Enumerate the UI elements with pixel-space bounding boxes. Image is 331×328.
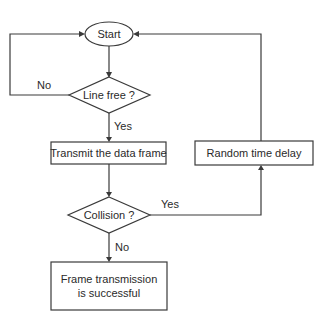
node-success-label-line1: Frame transmission	[61, 273, 158, 285]
node-random-delay: Random time delay	[195, 141, 313, 165]
node-start-label: Start	[97, 28, 120, 40]
node-transmit: Transmit the data frame	[50, 142, 166, 164]
node-collision: Collision ?	[68, 197, 150, 233]
edge-label-no-1: No	[37, 79, 51, 91]
node-line-free-label: Line free ?	[83, 89, 135, 101]
arrowhead-icon	[106, 257, 112, 262]
arrowhead-icon	[79, 31, 85, 37]
node-success-label-line2: is successful	[78, 287, 140, 299]
edge-transmit-to-collision	[106, 164, 112, 197]
edge-start-to-line-free	[106, 46, 112, 78]
node-success: Frame transmission is successful	[51, 262, 167, 310]
edge-line-free-yes: Yes	[106, 113, 132, 142]
node-line-free: Line free ?	[69, 77, 150, 113]
csma-flowchart: Start Line free ? No Yes Transmit the da…	[0, 0, 331, 328]
edge-label-yes-1: Yes	[114, 120, 132, 132]
node-collision-label: Collision ?	[84, 209, 135, 221]
edge-delay-to-start	[133, 31, 261, 141]
node-transmit-label: Transmit the data frame	[50, 147, 166, 159]
node-random-delay-label: Random time delay	[207, 147, 302, 159]
edge-label-no-2: No	[115, 241, 129, 253]
arrowhead-icon	[258, 165, 264, 170]
arrowhead-icon	[106, 137, 112, 142]
edge-collision-yes: Yes	[150, 165, 264, 215]
arrowhead-icon	[106, 192, 112, 197]
arrowhead-icon	[133, 31, 139, 37]
edge-collision-no: No	[106, 233, 129, 262]
node-start: Start	[85, 22, 133, 46]
edge-line-free-no: No	[10, 31, 85, 95]
edge-label-yes-2: Yes	[161, 198, 179, 210]
